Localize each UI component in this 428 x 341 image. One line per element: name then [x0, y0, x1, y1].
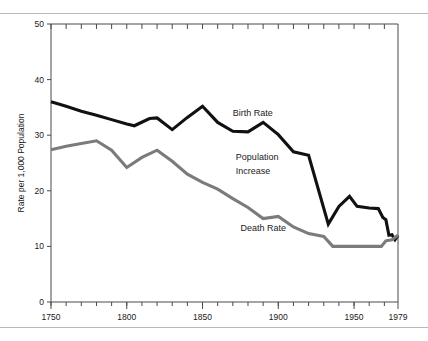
y-axis: 01020304050 — [35, 19, 51, 307]
x-tick-label: 1800 — [117, 312, 136, 322]
y-axis-title: Rate per 1,000 Population — [16, 113, 26, 212]
y-tick-label: 10 — [35, 241, 45, 251]
x-tick-label: 1900 — [269, 312, 288, 322]
y-tick-label: 30 — [35, 130, 45, 140]
x-tick-label: 1979 — [389, 312, 408, 322]
y-tick-label: 20 — [35, 186, 45, 196]
x-tick-label: 1950 — [345, 312, 364, 322]
annotation-label: Increase — [236, 166, 271, 176]
series-line-birth-rate — [51, 102, 398, 240]
chart-figure: 01020304050 175018001850190019501979 Bir… — [0, 0, 428, 341]
series-lines — [51, 102, 398, 247]
annotation-label: Death Rate — [240, 223, 286, 233]
annotation-label: Birth Rate — [233, 108, 273, 118]
axis-titles: Rate per 1,000 Population — [16, 113, 26, 212]
line-chart: 01020304050 175018001850190019501979 Bir… — [0, 0, 428, 341]
y-tick-label: 50 — [35, 19, 45, 29]
x-tick-label: 1850 — [193, 312, 212, 322]
x-axis: 175018001850190019501979 — [42, 24, 408, 322]
x-tick-label: 1750 — [42, 312, 61, 322]
y-tick-label: 0 — [39, 297, 44, 307]
y-tick-label: 40 — [35, 75, 45, 85]
annotation-label: Population — [236, 152, 279, 162]
series-line-death-rate — [51, 141, 398, 247]
